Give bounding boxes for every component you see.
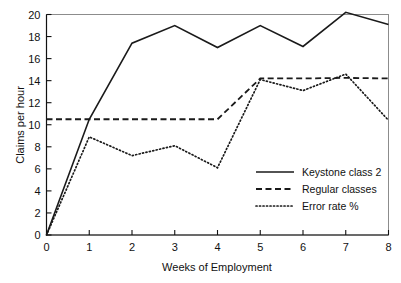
y-tick-label: 2: [34, 207, 40, 219]
y-tick-label: 16: [28, 53, 40, 65]
x-tick-label: 5: [257, 241, 263, 253]
y-tick-label: 4: [34, 185, 40, 197]
x-tick-label: 6: [300, 241, 306, 253]
y-axis-title: Claims per hour: [14, 86, 26, 164]
x-axis-title: Weeks of Employment: [162, 261, 272, 273]
x-tick-label: 8: [385, 241, 391, 253]
chart-container: 02468101214161820 012345678 Claims per h…: [0, 0, 401, 283]
line-chart: 02468101214161820 012345678 Claims per h…: [0, 0, 401, 283]
legend-label-1: Regular classes: [302, 183, 377, 195]
y-tick-label: 14: [28, 75, 40, 87]
y-tick-label: 12: [28, 97, 40, 109]
legend-label-0: Keystone class 2: [302, 166, 382, 178]
x-tick-label: 3: [172, 241, 178, 253]
y-tick-label: 8: [34, 141, 40, 153]
x-tick-label: 0: [43, 241, 49, 253]
x-tick-label: 1: [86, 241, 92, 253]
y-tick-label: 6: [34, 163, 40, 175]
x-tick-label: 4: [214, 241, 220, 253]
x-tick-label: 2: [129, 241, 135, 253]
x-tick-label: 7: [343, 241, 349, 253]
chart-background: [0, 0, 401, 283]
y-tick-label: 10: [28, 119, 40, 131]
y-tick-label: 0: [34, 229, 40, 241]
legend-label-2: Error rate %: [302, 200, 359, 212]
y-tick-label: 20: [28, 9, 40, 21]
y-tick-label: 18: [28, 31, 40, 43]
